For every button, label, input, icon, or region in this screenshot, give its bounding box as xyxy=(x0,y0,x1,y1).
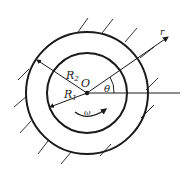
concentric-cylinder-diagram: R2 R1 O θ r ω xyxy=(0,0,191,176)
inner-radius-label: R1 xyxy=(63,88,77,102)
radial-axis xyxy=(87,37,168,93)
outer-radius-label: R2 xyxy=(65,69,79,83)
outer-radius-line xyxy=(37,60,87,93)
angle-label: θ xyxy=(104,83,110,94)
angle-arc xyxy=(110,77,114,93)
angular-velocity-label: ω xyxy=(84,108,91,117)
hatching xyxy=(14,18,158,164)
diagram-svg: R2 R1 O θ r ω xyxy=(0,0,191,176)
radial-axis-label: r xyxy=(160,27,165,37)
center-point xyxy=(85,91,89,95)
center-label: O xyxy=(81,77,90,90)
